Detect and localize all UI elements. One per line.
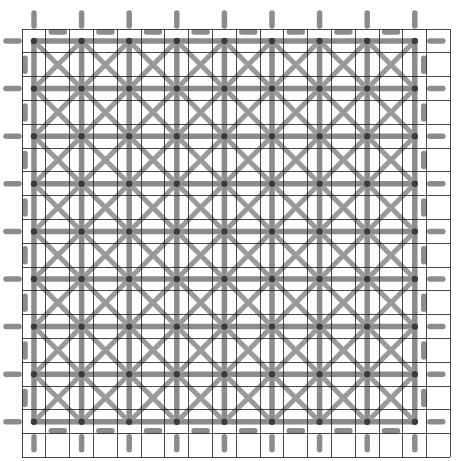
lattice-node bbox=[221, 228, 227, 234]
lattice-node bbox=[221, 276, 227, 282]
lattice-node bbox=[78, 323, 84, 329]
lattice-node bbox=[364, 38, 370, 44]
lattice-node bbox=[31, 276, 37, 282]
lattice-node bbox=[364, 85, 370, 91]
lattice-node bbox=[78, 371, 84, 377]
lattice-node bbox=[316, 419, 322, 425]
lattice-node bbox=[269, 276, 275, 282]
lattice-node bbox=[412, 276, 418, 282]
lattice-mesh-figure bbox=[0, 0, 474, 461]
lattice-node bbox=[174, 371, 180, 377]
lattice-node bbox=[364, 228, 370, 234]
lattice-node bbox=[126, 181, 132, 187]
lattice-node bbox=[31, 133, 37, 139]
lattice-node bbox=[174, 133, 180, 139]
lattice-node bbox=[412, 181, 418, 187]
lattice-node bbox=[78, 228, 84, 234]
lattice-node bbox=[221, 181, 227, 187]
lattice-node bbox=[78, 419, 84, 425]
lattice-node bbox=[174, 419, 180, 425]
lattice-node bbox=[316, 323, 322, 329]
lattice-node bbox=[269, 85, 275, 91]
lattice-node bbox=[78, 85, 84, 91]
lattice-node bbox=[412, 85, 418, 91]
lattice-node bbox=[316, 228, 322, 234]
lattice-node bbox=[31, 371, 37, 377]
lattice-node bbox=[364, 181, 370, 187]
lattice-node bbox=[269, 181, 275, 187]
lattice-node bbox=[316, 371, 322, 377]
lattice-node bbox=[31, 419, 37, 425]
lattice-node bbox=[364, 419, 370, 425]
lattice-node bbox=[316, 181, 322, 187]
lattice-node bbox=[126, 228, 132, 234]
lattice-node bbox=[364, 133, 370, 139]
lattice-node bbox=[78, 181, 84, 187]
lattice-node bbox=[221, 133, 227, 139]
lattice-node bbox=[316, 38, 322, 44]
lattice-node bbox=[126, 371, 132, 377]
lattice-node bbox=[126, 85, 132, 91]
lattice-node bbox=[174, 276, 180, 282]
lattice-node bbox=[412, 419, 418, 425]
lattice-node bbox=[316, 276, 322, 282]
lattice-node bbox=[269, 323, 275, 329]
figure-canvas: Lattice truss mesh over background grid bbox=[0, 0, 474, 461]
lattice-node bbox=[31, 323, 37, 329]
lattice-node bbox=[269, 228, 275, 234]
lattice-node bbox=[364, 276, 370, 282]
lattice-node bbox=[31, 38, 37, 44]
lattice-node bbox=[221, 323, 227, 329]
lattice-node bbox=[364, 323, 370, 329]
lattice-node bbox=[126, 419, 132, 425]
lattice-node bbox=[269, 38, 275, 44]
lattice-node bbox=[221, 371, 227, 377]
lattice-node bbox=[316, 133, 322, 139]
lattice-node bbox=[174, 38, 180, 44]
lattice-node bbox=[412, 38, 418, 44]
lattice-node bbox=[221, 38, 227, 44]
lattice-node bbox=[78, 276, 84, 282]
lattice-node bbox=[412, 371, 418, 377]
lattice-node bbox=[126, 133, 132, 139]
lattice-node bbox=[31, 181, 37, 187]
lattice-node bbox=[174, 181, 180, 187]
lattice-node bbox=[412, 228, 418, 234]
lattice-node bbox=[269, 371, 275, 377]
lattice-node bbox=[174, 85, 180, 91]
lattice-node bbox=[221, 419, 227, 425]
lattice-node bbox=[126, 38, 132, 44]
lattice-node bbox=[269, 133, 275, 139]
lattice-node bbox=[269, 419, 275, 425]
lattice-node bbox=[31, 228, 37, 234]
lattice-node bbox=[364, 371, 370, 377]
lattice-node bbox=[316, 85, 322, 91]
lattice-node bbox=[78, 133, 84, 139]
lattice-node bbox=[412, 323, 418, 329]
lattice-node bbox=[78, 38, 84, 44]
lattice-node bbox=[126, 276, 132, 282]
lattice-node bbox=[221, 85, 227, 91]
lattice-node bbox=[174, 228, 180, 234]
lattice-node bbox=[174, 323, 180, 329]
lattice-node bbox=[126, 323, 132, 329]
lattice-node bbox=[412, 133, 418, 139]
lattice-node bbox=[31, 85, 37, 91]
